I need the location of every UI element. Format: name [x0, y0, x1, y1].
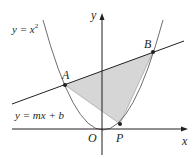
point-a-dot	[63, 83, 67, 87]
origin-label: O	[88, 131, 97, 145]
point-b-dot	[151, 50, 155, 54]
parabola-line-diagram: y = x2 y = mx + b A B P O x y	[0, 0, 195, 159]
x-axis-label: x	[181, 134, 188, 148]
point-p-dot	[118, 122, 122, 126]
x-axis-arrow-icon	[181, 127, 188, 132]
point-b-label: B	[144, 37, 152, 51]
y-axis-label: y	[90, 8, 97, 22]
y-axis-arrow-icon	[100, 13, 105, 20]
point-p-label: P	[115, 131, 124, 145]
diagram-canvas: y = x2 y = mx + b A B P O x y	[0, 0, 195, 159]
point-a-label: A	[61, 68, 70, 82]
line-label: y = mx + b	[14, 109, 65, 121]
parabola-label: y = x2	[11, 22, 39, 35]
